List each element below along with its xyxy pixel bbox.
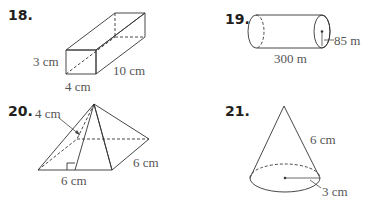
cylinder-body <box>248 15 330 48</box>
hidden-edge <box>250 164 320 178</box>
problem-19: 19. 85 m 300 m <box>225 11 360 66</box>
arrow-head <box>75 130 80 135</box>
width-label: 4 cm <box>65 79 91 94</box>
height-label: 3 cm <box>33 54 59 69</box>
problem-number: 20. <box>8 103 33 119</box>
base-side-label: 6 cm <box>133 155 159 170</box>
problem-number: 19. <box>225 11 250 27</box>
cylinder-figure <box>248 15 334 48</box>
length-label: 300 m <box>274 51 307 66</box>
problem-number: 21. <box>225 103 250 119</box>
radius-label: 85 m <box>334 33 360 48</box>
hidden-edge <box>38 139 77 170</box>
problem-21: 21. 6 cm 3 cm <box>225 103 348 199</box>
problem-18: 18. 3 cm 10 cm 4 cm <box>8 7 145 94</box>
cone-figure <box>250 106 321 192</box>
prism-top-face <box>66 13 145 50</box>
slant-height-label: 6 cm <box>310 132 336 147</box>
hidden-edge <box>66 37 115 74</box>
geometry-figures: 18. 3 cm 10 cm 4 cm 19. 85 m 300 m <box>0 0 372 201</box>
base-front-label: 6 cm <box>61 173 87 188</box>
problem-20: 20. 4 cm 6 cm 6 cm <box>8 103 159 188</box>
right-angle-marker <box>67 163 75 170</box>
radius-label: 3 cm <box>322 184 348 199</box>
length-label: 10 cm <box>113 63 145 78</box>
hidden-edge <box>256 15 264 48</box>
slant-height-label: 4 cm <box>35 106 61 121</box>
problem-number: 18. <box>8 7 33 23</box>
